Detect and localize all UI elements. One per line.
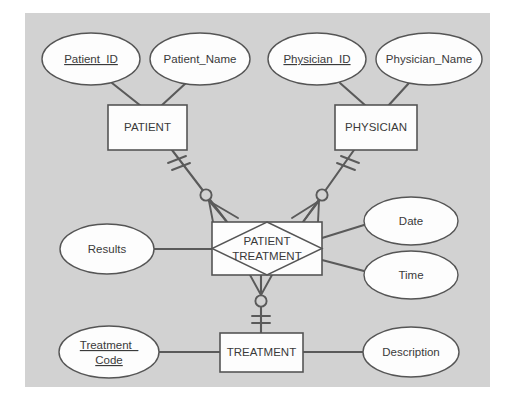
attribute-label-line2: Code — [95, 354, 123, 366]
attribute-label: Physician_Name — [386, 53, 472, 65]
entity-treatment[interactable]: TREATMENT — [220, 333, 303, 372]
associative-entity-patient-treatment[interactable]: PATIENT TREATMENT — [212, 222, 322, 275]
attribute-patient-id[interactable]: Patient_ID — [42, 33, 140, 85]
er-diagram-root: Patient_ID Patient_Name Physician_ID Phy… — [0, 0, 506, 410]
entity-label: PATIENT — [124, 121, 171, 133]
attribute-label: Time — [398, 269, 423, 281]
attribute-label: Results — [88, 243, 127, 255]
entity-label: TREATMENT — [227, 346, 296, 358]
attribute-label: Patient_ID — [64, 53, 118, 65]
attribute-treatment-code[interactable]: Treatment_ Code — [59, 326, 159, 378]
associative-entity-label-line1: PATIENT — [244, 235, 291, 247]
entity-physician[interactable]: PHYSICIAN — [335, 105, 417, 150]
cardinality-zero-circle — [255, 295, 266, 306]
attribute-physician-name[interactable]: Physician_Name — [376, 33, 482, 85]
attribute-label: Physician_ID — [283, 53, 350, 65]
attribute-label: Description — [382, 346, 440, 358]
attribute-physician-id[interactable]: Physician_ID — [268, 33, 366, 85]
attribute-label: Patient_Name — [164, 53, 237, 65]
crows-foot-prong-right — [318, 201, 319, 222]
er-diagram-canvas: Patient_ID Patient_Name Physician_ID Phy… — [0, 0, 506, 410]
entity-patient[interactable]: PATIENT — [108, 105, 187, 150]
attribute-patient-name[interactable]: Patient_Name — [150, 33, 250, 85]
entity-label: PHYSICIAN — [345, 121, 407, 133]
attribute-results[interactable]: Results — [60, 224, 154, 274]
attribute-time[interactable]: Time — [364, 251, 458, 299]
attribute-description[interactable]: Description — [363, 327, 459, 377]
attribute-label-line1: Treatment_ — [80, 339, 139, 351]
associative-entity-label-line2: TREATMENT — [232, 250, 301, 262]
attribute-label: Date — [399, 215, 423, 227]
cardinality-zero-circle — [316, 189, 327, 200]
attribute-date[interactable]: Date — [364, 197, 458, 245]
cardinality-zero-circle — [200, 189, 211, 200]
